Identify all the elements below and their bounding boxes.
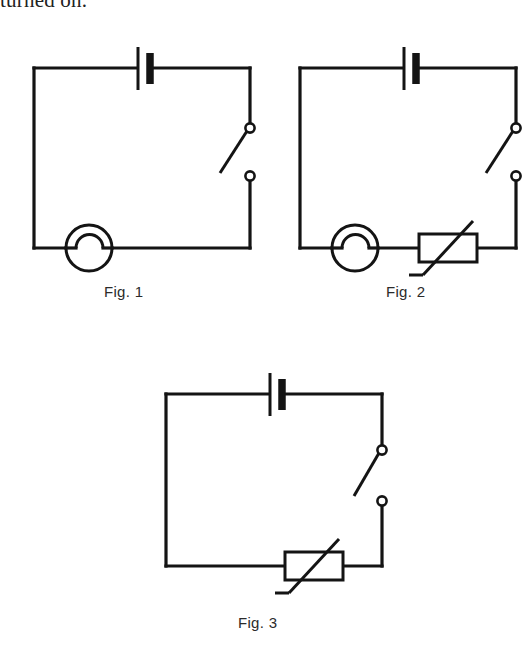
figure-1: Fig. 1 [0,40,266,270]
figure-3-circuit-diagram [132,366,422,636]
figure-3-caption: Fig. 3 [238,614,277,631]
switch-lower-terminal [245,171,254,180]
figure-1-circuit-diagram [0,40,266,270]
switch-blade [220,131,247,173]
figure-1-caption: Fig. 1 [104,283,143,300]
switch-lower-terminal [377,496,386,505]
switch-blade [354,453,379,496]
figure-2-caption: Fig. 2 [386,283,425,300]
clipped-body-text: turned on. [0,0,200,16]
page-canvas: turned on. [0,0,532,648]
switch-lower-terminal [511,171,520,180]
figure-2-circuit-diagram [266,40,532,270]
figure-3: Fig. 3 [132,366,422,636]
figure-2: Fig. 2 [266,40,532,270]
switch-blade [486,131,513,173]
